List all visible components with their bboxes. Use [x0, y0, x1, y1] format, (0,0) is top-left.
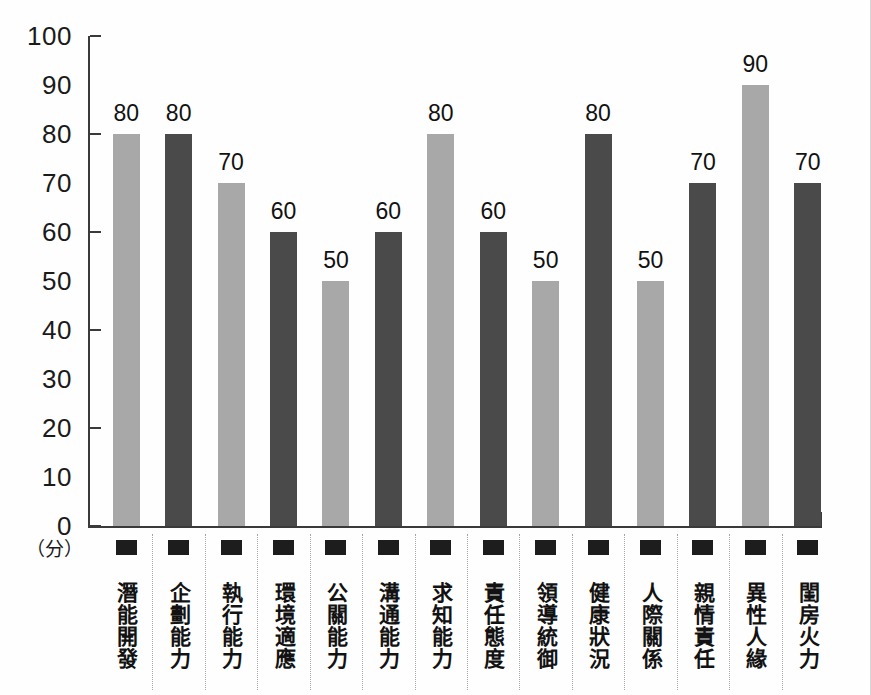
category-item: 人際關係: [628, 532, 674, 690]
bar: [427, 134, 454, 526]
y-axis-tick-mark: [90, 427, 101, 429]
category-item: 責任態度: [470, 532, 516, 690]
bar-value-label: 70: [778, 151, 838, 174]
filled-square-marker-icon: [535, 540, 556, 555]
category-label: 環境適應: [273, 562, 295, 690]
category-label: 健康狀況: [587, 562, 609, 690]
y-axis-tick-mark: [90, 231, 101, 233]
bar-value-label: 80: [96, 102, 156, 125]
bar: [218, 183, 245, 526]
bar-value-label: 80: [411, 102, 471, 125]
filled-square-marker-icon: [430, 540, 451, 555]
category-label: 異性人緣: [744, 562, 766, 690]
bar: [480, 232, 507, 526]
y-axis-tick-label: 70: [10, 170, 72, 196]
category-separator: [624, 534, 626, 690]
bar-value-label: 90: [725, 53, 785, 76]
category-label: 公關能力: [325, 562, 347, 690]
bar-value-label: 50: [621, 249, 681, 272]
bar: [637, 281, 664, 526]
filled-square-marker-icon: [797, 540, 818, 555]
bar: [165, 134, 192, 526]
y-axis-unit-label: （分）: [26, 540, 83, 559]
filled-square-marker-icon: [483, 540, 504, 555]
y-axis-tick-mark: [90, 329, 101, 331]
category-label: 人際關係: [640, 562, 662, 690]
bar: [270, 232, 297, 526]
y-axis-tick-mark: [90, 35, 101, 37]
y-axis-tick-label: 40: [10, 317, 72, 343]
bar-value-label: 70: [201, 151, 261, 174]
category-label: 責任態度: [482, 562, 504, 690]
category-item: 健康狀況: [575, 532, 621, 690]
bar-value-label: 70: [673, 151, 733, 174]
bar-value-label: 60: [463, 200, 523, 223]
filled-square-marker-icon: [168, 540, 189, 555]
bar-value-label: 50: [306, 249, 366, 272]
bar: [322, 281, 349, 526]
filled-square-marker-icon: [378, 540, 399, 555]
category-item: 公關能力: [313, 532, 359, 690]
category-separator: [677, 534, 679, 690]
category-item: 領導統御: [523, 532, 569, 690]
category-separator: [782, 534, 784, 690]
filled-square-marker-icon: [640, 540, 661, 555]
category-label: 執行能力: [220, 562, 242, 690]
category-item: 親情責任: [680, 532, 726, 690]
category-separator: [572, 534, 574, 690]
category-separator: [519, 534, 521, 690]
filled-square-marker-icon: [273, 540, 294, 555]
category-separator: [205, 534, 207, 690]
category-separator: [152, 534, 154, 690]
category-label: 企劃能力: [168, 562, 190, 690]
y-axis-tick-label: 100: [10, 23, 72, 49]
category-separator: [729, 534, 731, 690]
bar-value-label: 80: [568, 102, 628, 125]
bar-value-label: 60: [254, 200, 314, 223]
category-item: 環境適應: [261, 532, 307, 690]
bar: [794, 183, 821, 526]
chart-page: 1009080706050403020100 80807060506080605…: [0, 0, 871, 695]
category-item: 閨房火力: [785, 532, 831, 690]
filled-square-marker-icon: [692, 540, 713, 555]
category-separator: [415, 534, 417, 690]
filled-square-marker-icon: [325, 540, 346, 555]
filled-square-marker-icon: [745, 540, 766, 555]
category-labels: 潛能開發企劃能力執行能力環境適應公關能力溝通能力求知能力責任態度領導統御健康狀況…: [88, 532, 822, 695]
bar-value-label: 60: [358, 200, 418, 223]
plot-area: 1009080706050403020100 80807060506080605…: [88, 36, 822, 528]
category-label: 求知能力: [430, 562, 452, 690]
category-item: 企劃能力: [156, 532, 202, 690]
y-axis-tick-mark: [90, 133, 101, 135]
bar: [532, 281, 559, 526]
category-separator: [362, 534, 364, 690]
bar: [585, 134, 612, 526]
bar: [375, 232, 402, 526]
y-axis-tick-label: 80: [10, 121, 72, 147]
x-axis-line: [88, 526, 822, 528]
y-axis-tick-label: 10: [10, 464, 72, 490]
category-label: 潛能開發: [115, 562, 137, 690]
filled-square-marker-icon: [588, 540, 609, 555]
category-item: 異性人緣: [732, 532, 778, 690]
category-item: 潛能開發: [103, 532, 149, 690]
filled-square-marker-icon: [221, 540, 242, 555]
filled-square-marker-icon: [116, 540, 137, 555]
category-label: 閨房火力: [797, 562, 819, 690]
y-axis-tick-label: 0: [10, 513, 72, 539]
y-axis-tick-mark: [90, 525, 101, 527]
category-label: 親情責任: [692, 562, 714, 690]
category-item: 求知能力: [418, 532, 464, 690]
category-label: 領導統御: [535, 562, 557, 690]
y-axis-tick-label: 30: [10, 366, 72, 392]
category-separator: [310, 534, 312, 690]
bar-value-label: 80: [149, 102, 209, 125]
y-axis-tick-label: 60: [10, 219, 72, 245]
y-axis-tick-label: 20: [10, 415, 72, 441]
category-separator: [257, 534, 259, 690]
bar: [113, 134, 140, 526]
y-axis-line: [88, 36, 90, 528]
bar: [689, 183, 716, 526]
bar: [742, 85, 769, 526]
category-label: 溝通能力: [377, 562, 399, 690]
